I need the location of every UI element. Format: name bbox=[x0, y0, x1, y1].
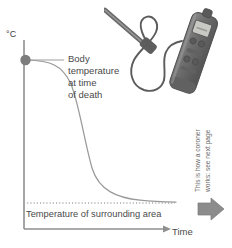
x-axis-arrowhead bbox=[163, 226, 171, 233]
x-axis-label: Time bbox=[172, 226, 193, 238]
time-of-death-marker bbox=[20, 55, 30, 65]
thermometer-meter-body bbox=[168, 5, 222, 95]
side-note: This is how a coroner works: see next pa… bbox=[193, 110, 223, 192]
figure-root: °C Body temperature at time of death Tem… bbox=[0, 0, 232, 248]
ambient-temperature-label: Temperature of surrounding area bbox=[26, 209, 161, 221]
digital-thermometer-photo bbox=[104, 2, 232, 106]
next-page-arrow-icon bbox=[196, 196, 226, 222]
side-note-text: This is how a coroner works: see next pa… bbox=[193, 110, 223, 192]
y-axis-unit-label: °C bbox=[6, 29, 17, 41]
